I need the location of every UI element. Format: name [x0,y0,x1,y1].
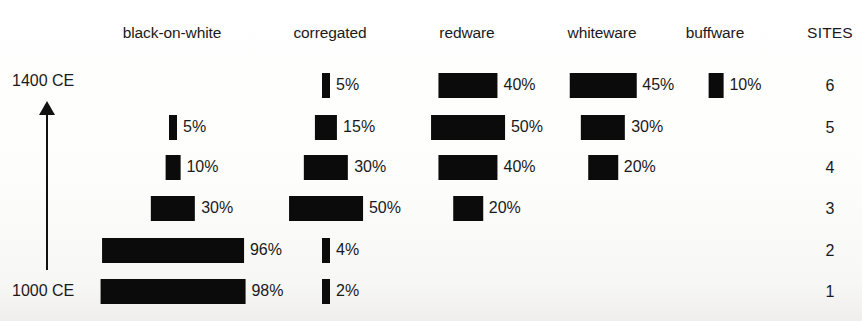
site-number-3: 3 [815,200,845,218]
bar-whiteware-site-5 [581,115,625,140]
bar-corregated-site-1 [322,279,330,304]
bar-black-on-white-site-4 [166,155,181,180]
bar-value-corregated-site-4: 30% [354,159,386,175]
time-axis-line [46,112,48,270]
bar-corregated-site-2 [322,238,330,263]
bar-value-black-on-white-site-3: 30% [201,200,233,216]
column-header-sites: SITES [807,24,853,42]
column-header-redware: redware [439,24,494,42]
bar-buffware-site-6 [709,73,724,98]
bar-black-on-white-site-1 [101,279,246,304]
bar-black-on-white-site-5 [169,115,177,140]
bar-redware-site-4 [438,155,497,180]
paper-background [0,0,862,321]
site-number-2: 2 [815,242,845,260]
bar-whiteware-site-4 [588,155,618,180]
site-number-5: 5 [815,119,845,137]
site-number-4: 4 [815,159,845,177]
bar-value-redware-site-4: 40% [504,159,536,175]
bar-black-on-white-site-2 [102,238,244,263]
axis-label-top: 1400 CE [12,72,74,90]
bar-corregated-site-5 [315,115,337,140]
bar-redware-site-6 [438,73,497,98]
bar-corregated-site-3 [289,196,363,221]
column-header-corregated: corregated [293,24,366,42]
bar-value-redware-site-3: 20% [489,200,521,216]
site-number-6: 6 [815,77,845,95]
bar-whiteware-site-6 [570,73,637,98]
bar-value-corregated-site-3: 50% [369,200,401,216]
column-header-black-on-white: black-on-white [123,24,222,42]
column-header-whiteware: whiteware [568,24,637,42]
bar-value-redware-site-6: 40% [504,77,536,93]
bar-value-black-on-white-site-5: 5% [183,119,206,135]
bar-value-corregated-site-1: 2% [336,283,359,299]
bar-value-corregated-site-2: 4% [336,242,359,258]
axis-label-bottom: 1000 CE [12,282,74,300]
site-number-1: 1 [815,283,845,301]
bar-value-buffware-site-6: 10% [729,77,761,93]
bar-value-black-on-white-site-2: 96% [250,242,282,258]
bar-value-corregated-site-5: 15% [343,119,375,135]
bar-black-on-white-site-3 [151,196,195,221]
bar-redware-site-3 [453,196,483,221]
bar-corregated-site-4 [304,155,348,180]
bar-value-whiteware-site-4: 20% [624,159,656,175]
bar-value-corregated-site-6: 5% [336,77,359,93]
bar-redware-site-5 [431,115,505,140]
bar-corregated-site-6 [322,73,330,98]
column-header-buffware: buffware [686,24,744,42]
bar-value-redware-site-5: 50% [511,119,543,135]
bar-value-black-on-white-site-1: 98% [251,283,283,299]
bar-value-whiteware-site-6: 45% [642,77,674,93]
bar-value-whiteware-site-5: 30% [631,119,663,135]
seriation-chart: black-on-whitecorregatedredwarewhiteware… [0,0,862,321]
bar-value-black-on-white-site-4: 10% [186,159,218,175]
